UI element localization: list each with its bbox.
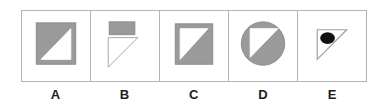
option-c-shape: [160, 11, 228, 81]
options-row: [21, 10, 367, 82]
option-cell-e[interactable]: [298, 11, 366, 81]
option-label-c: C: [159, 84, 228, 108]
option-cell-b[interactable]: [91, 11, 160, 81]
option-b-shape: [91, 11, 159, 81]
labels-row: A B C D E: [21, 84, 367, 108]
option-a-shape: [22, 11, 90, 81]
option-label-a: A: [21, 84, 90, 108]
option-label-e: E: [298, 84, 367, 108]
option-cell-a[interactable]: [22, 11, 91, 81]
option-d-shape: [229, 11, 297, 81]
dot-marker: [320, 32, 335, 44]
option-e-shape: [298, 11, 366, 81]
option-cell-d[interactable]: [229, 11, 298, 81]
option-label-b: B: [90, 84, 159, 108]
option-label-d: D: [229, 84, 298, 108]
option-cell-c[interactable]: [160, 11, 229, 81]
figure-container: A B C D E: [0, 0, 388, 112]
